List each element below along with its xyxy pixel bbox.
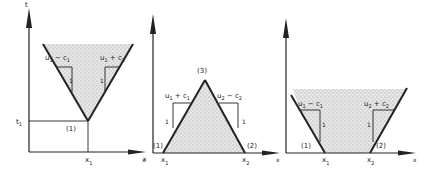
characteristics-diagram: t x 1 1 u1 − c1 u1 + c1 (1) t1 x1 x x bbox=[0, 0, 430, 184]
x-axis-arrow-icon bbox=[262, 151, 280, 156]
label-u1-plus-c1: u1 + c1 bbox=[165, 92, 190, 101]
slope-unit-left: 1 bbox=[69, 77, 73, 84]
panel-3: x 1 1 u1 − c1 u2 + c2 (1) (2) x1 x2 bbox=[283, 18, 417, 166]
x-axis-label: x bbox=[413, 156, 417, 163]
t-axis-label: t bbox=[25, 1, 28, 9]
region-label-1: (1) bbox=[66, 125, 76, 133]
panel-1: t x 1 1 u1 − c1 u1 + c1 (1) t1 x1 bbox=[16, 1, 147, 166]
slope-unit-right: 1 bbox=[242, 118, 246, 125]
t1-tick-label: t1 bbox=[16, 118, 22, 127]
t-axis-arrow-icon bbox=[150, 14, 156, 34]
t-axis-arrow-icon bbox=[26, 8, 32, 28]
region-label-1: (1) bbox=[153, 142, 163, 150]
label-u1-minus-c1: u1 − c1 bbox=[45, 54, 70, 63]
slope-unit-left: 1 bbox=[322, 121, 326, 128]
x-axis-arrow-icon bbox=[398, 151, 416, 156]
region-label-2: (2) bbox=[247, 142, 257, 150]
x-axis-label-prev: x bbox=[142, 156, 146, 163]
panel-2: x x 1 1 u1 + c1 u2 − c2 (3) (1) (2) x1 x… bbox=[142, 14, 280, 166]
x2-tick-label: x2 bbox=[242, 156, 249, 166]
x1-tick-label: x1 bbox=[85, 156, 92, 166]
slope-unit-right: 1 bbox=[100, 77, 104, 84]
region-label-2: (2) bbox=[376, 142, 386, 150]
x-axis-label: x bbox=[276, 156, 280, 163]
x-axis-arrow-icon bbox=[128, 150, 146, 155]
x2-tick-label: x2 bbox=[367, 156, 374, 166]
x1-tick-label: x1 bbox=[161, 156, 168, 166]
region-label-3: (3) bbox=[197, 67, 207, 75]
x1-tick-label: x1 bbox=[322, 156, 329, 166]
label-u2-plus-c2: u2 + c2 bbox=[364, 100, 389, 109]
t-axis-arrow-icon bbox=[283, 18, 289, 38]
label-u1-minus-c1: u1 − c1 bbox=[298, 100, 323, 109]
slope-unit-right: 1 bbox=[367, 121, 371, 128]
region-label-1: (1) bbox=[301, 142, 311, 150]
slope-unit-left: 1 bbox=[165, 118, 169, 125]
shaded-triangle-region bbox=[163, 80, 245, 153]
label-u1-plus-c1: u1 + c1 bbox=[100, 54, 125, 63]
label-u2-minus-c2: u2 − c2 bbox=[217, 92, 242, 101]
